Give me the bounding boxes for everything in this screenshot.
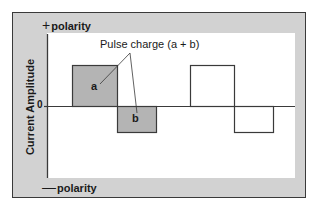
segment-a-label: a — [91, 80, 97, 92]
pulse-charge-title: Pulse charge (a + b) — [100, 38, 199, 50]
segment-b-label: b — [132, 112, 139, 124]
positive-polarity-label: +polarity — [42, 17, 91, 33]
minus-sign: — — [42, 179, 56, 195]
positive-polarity-text: polarity — [51, 20, 91, 32]
y-axis-label: Current Amplitude — [24, 59, 36, 155]
negative-polarity-text: polarity — [57, 182, 97, 194]
plus-sign: + — [42, 17, 50, 33]
zero-label: 0 — [37, 99, 43, 110]
negative-polarity-label: —polarity — [42, 179, 97, 195]
pulse-2-positive — [191, 66, 235, 107]
leader-line-b — [130, 53, 137, 113]
pulse-2-negative — [235, 107, 274, 133]
